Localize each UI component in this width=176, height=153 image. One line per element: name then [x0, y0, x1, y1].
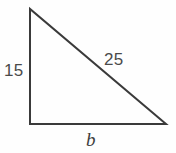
- side-label-horizontal-leg: b: [86, 130, 96, 149]
- triangle-figure: 15 25 b: [0, 0, 176, 153]
- side-label-hypotenuse: 25: [104, 51, 123, 68]
- side-label-vertical-leg: 15: [4, 62, 23, 79]
- right-triangle-outline: [30, 9, 166, 124]
